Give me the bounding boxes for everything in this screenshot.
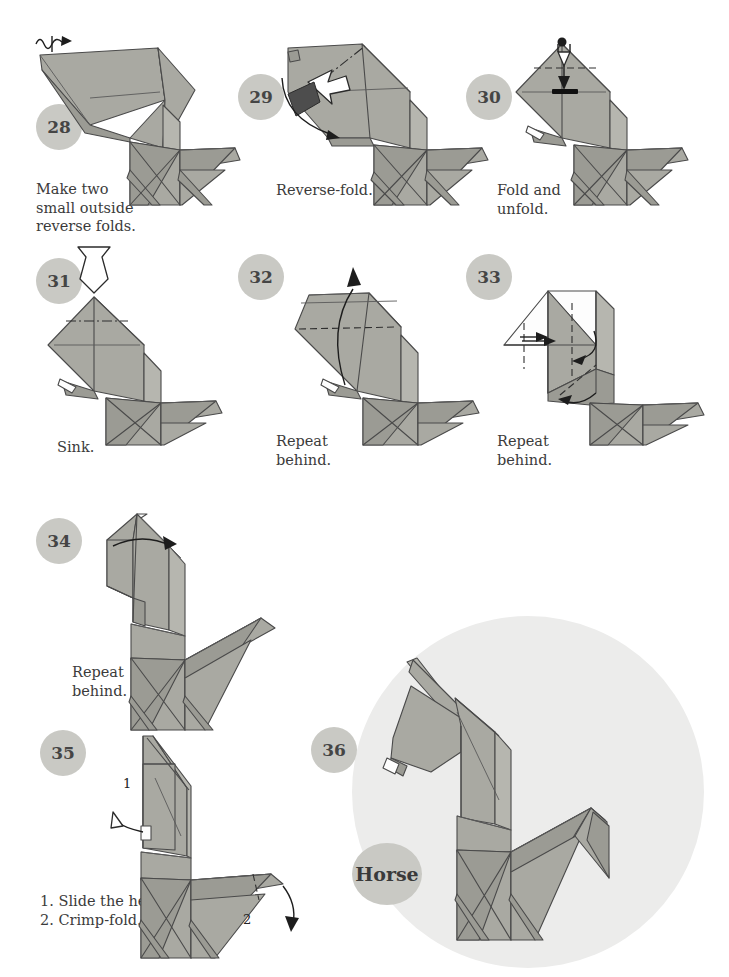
figure-step-34 <box>85 500 315 730</box>
figure-step-28 <box>30 30 250 205</box>
sink-arrow <box>78 247 110 293</box>
figure-step-29 <box>270 30 500 205</box>
step-number: 34 <box>47 531 71 551</box>
figure-step-35: 1 2 <box>125 728 340 958</box>
step-number: 30 <box>477 87 501 107</box>
figure-step-32 <box>265 245 495 445</box>
inline-label-1: 1 <box>123 776 131 791</box>
figure-step-33 <box>490 245 720 445</box>
crimp-zigzag-arrow <box>36 36 72 52</box>
slide-arrow <box>111 812 143 832</box>
step-number: 35 <box>51 743 75 763</box>
figure-step-31 <box>30 245 255 445</box>
figure-step-36-finished-horse <box>395 640 675 940</box>
figure-step-30 <box>500 30 725 205</box>
crimp-arrow <box>283 886 299 932</box>
step-badge-35: 35 <box>40 730 86 776</box>
origami-diagram-page: 28 Make two small outside reverse folds. <box>0 0 729 977</box>
inline-label-2: 2 <box>243 912 251 927</box>
step-number: 36 <box>322 740 346 760</box>
step-badge-34: 34 <box>36 518 82 564</box>
step-badge-36: 36 <box>311 727 357 773</box>
